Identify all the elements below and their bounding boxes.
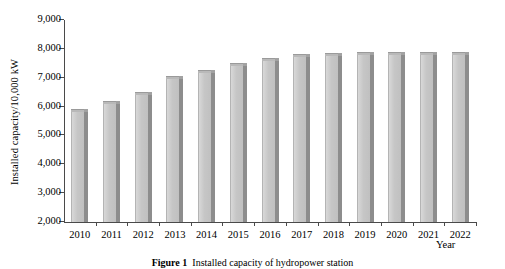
bar-top-face [262,58,275,61]
bar-top-face [452,52,465,55]
bar-front-face [230,63,243,222]
bar-top-face [135,92,148,95]
x-tick-mark [191,222,192,226]
x-tick-mark [96,222,97,226]
bar-side-face [433,54,437,222]
bar-front-face [388,52,401,222]
figure-caption: Figure 1 Installed capacity of hydropowe… [0,256,505,269]
bar-side-face [116,103,120,222]
bar-front-face [198,70,211,222]
bar [103,101,116,222]
bar-top-side-face [275,58,279,61]
bar-front-face [103,101,116,222]
bar-top-face [357,52,370,55]
bar-top-side-face [116,101,120,104]
bar-side-face [275,60,279,222]
bar [71,109,84,222]
bar-side-face [370,54,374,222]
bar-top-face [198,70,211,73]
x-tick-mark [381,222,382,226]
bar-front-face [262,58,275,222]
bar [262,58,275,222]
bar-side-face [465,54,469,222]
bar [452,52,465,222]
bar-top-face [293,54,306,57]
y-tick-label: 5,000 [37,126,61,142]
figure-caption-text: Installed capacity of hydropower station [187,257,353,268]
y-axis-line [64,20,65,223]
bar [166,76,179,222]
x-tick-mark [349,222,350,226]
bar-top-side-face [84,109,88,112]
bar-front-face [71,109,84,222]
bar-top-face [166,76,179,79]
x-tick-mark [254,222,255,226]
bar [388,52,401,222]
bar-top-face [325,53,338,56]
y-tick-label: 2,000 [37,213,61,229]
bar-front-face [357,52,370,222]
x-axis-line [64,222,476,223]
bar-front-face [420,52,433,222]
bar-top-side-face [401,52,405,55]
y-tick-label: 9,000 [37,11,61,27]
bar-top-face [388,52,401,55]
bar-front-face [293,54,306,222]
bar-side-face [84,111,88,222]
x-tick-mark [476,222,477,226]
bar-side-face [306,56,310,222]
bar-top-side-face [433,52,437,55]
bar-side-face [338,55,342,222]
bar-front-face [166,76,179,222]
y-tick-label: 8,000 [37,40,61,56]
y-tick-label: 4,000 [37,155,61,171]
y-axis-title: Installed capacity/10,000 kW [6,16,24,228]
bar [230,63,243,222]
bar [135,92,148,222]
bar-top-side-face [465,52,469,55]
bar-top-side-face [338,53,342,56]
bar-front-face [452,52,465,222]
bar [293,54,306,222]
x-tick-mark [159,222,160,226]
bar-side-face [211,72,215,222]
bar-top-face [420,52,433,55]
bar-top-side-face [306,54,310,57]
bar-side-face [148,94,152,222]
bar-top-side-face [211,70,215,73]
bar-side-face [179,78,183,222]
bar [325,53,338,222]
x-axis-title: Year [436,238,496,252]
x-tick-mark [413,222,414,226]
x-tick-mark [286,222,287,226]
x-tick-mark [127,222,128,226]
y-tick-label: 7,000 [37,69,61,85]
bar-top-side-face [370,52,374,55]
bar [357,52,370,222]
bar-side-face [401,54,405,222]
bar-front-face [325,53,338,222]
y-tick-label: 6,000 [37,98,61,114]
bar [198,70,211,222]
x-tick-mark [318,222,319,226]
bar-top-face [103,101,116,104]
bar-top-side-face [148,92,152,95]
figure-caption-label: Figure 1 [152,257,188,268]
bar-front-face [135,92,148,222]
plot-area: 2,0003,0004,0005,0006,0007,0008,0009,000… [64,20,476,222]
bar-top-face [230,63,243,66]
x-tick-mark [222,222,223,226]
bar-top-side-face [243,63,247,66]
bar-top-side-face [179,76,183,79]
x-tick-mark [444,222,445,226]
bar-side-face [243,65,247,222]
y-tick-label: 3,000 [37,184,61,200]
bar [420,52,433,222]
bar-top-face [71,109,84,112]
